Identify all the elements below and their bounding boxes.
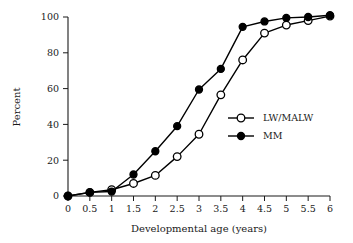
- x-tick-label: 2: [152, 203, 158, 214]
- data-point-marker: [239, 23, 246, 30]
- x-tick-label: 5.5: [301, 203, 316, 214]
- legend-label: MM: [263, 130, 283, 141]
- legend-item-2: MM: [228, 130, 283, 141]
- y-axis-label: Percent: [11, 88, 22, 127]
- x-tick-label: 6: [327, 203, 333, 214]
- y-tick-label: 80: [47, 47, 59, 58]
- legend-label: LW/MALW: [263, 112, 314, 123]
- data-series-group: [64, 12, 334, 200]
- series-2: [65, 12, 334, 200]
- y-tick-label: 60: [47, 83, 59, 94]
- data-point-marker: [217, 91, 225, 99]
- x-tick-label: 2.5: [170, 203, 185, 214]
- data-point-marker: [283, 14, 290, 21]
- data-point-marker: [261, 18, 268, 25]
- data-point-marker: [195, 130, 203, 138]
- data-point-marker: [173, 153, 181, 161]
- legend-item-1: LW/MALW: [228, 112, 314, 123]
- series-line: [68, 15, 330, 196]
- data-point-marker: [152, 172, 160, 180]
- legend-marker: [237, 114, 245, 122]
- y-tick-label: 20: [47, 155, 59, 166]
- x-tick-label: 3.5: [213, 203, 228, 214]
- data-point-marker: [196, 86, 203, 93]
- y-axis-ticks: 020406080100: [41, 11, 68, 201]
- x-axis-ticks: 00.511.522.533.544.555.56: [65, 196, 333, 214]
- x-axis-label: Developmental age (years): [131, 223, 267, 234]
- data-point-marker: [283, 21, 291, 29]
- x-tick-label: 3: [196, 203, 202, 214]
- series-line: [68, 16, 330, 196]
- data-point-marker: [174, 123, 181, 130]
- data-point-marker: [327, 12, 334, 19]
- data-point-marker: [239, 56, 247, 64]
- y-tick-label: 40: [47, 119, 59, 130]
- x-tick-label: 0.5: [82, 203, 97, 214]
- x-tick-label: 4: [240, 203, 246, 214]
- x-tick-label: 1: [109, 203, 115, 214]
- data-point-marker: [217, 65, 224, 72]
- line-chart: 020406080100 00.511.522.533.544.555.56 D…: [0, 0, 353, 243]
- y-tick-label: 0: [53, 190, 59, 201]
- data-point-marker: [305, 14, 312, 21]
- data-point-marker: [130, 171, 137, 178]
- data-point-marker: [108, 188, 115, 195]
- x-tick-label: 5: [283, 203, 289, 214]
- x-tick-label: 4.5: [257, 203, 272, 214]
- x-tick-label: 0: [65, 203, 71, 214]
- data-point-marker: [130, 180, 138, 188]
- y-tick-label: 100: [41, 11, 59, 22]
- legend-marker: [238, 133, 245, 140]
- data-point-marker: [261, 29, 269, 37]
- data-point-marker: [86, 189, 93, 196]
- chart-figure: 020406080100 00.511.522.533.544.555.56 D…: [0, 0, 353, 243]
- data-point-marker: [65, 193, 72, 200]
- x-tick-label: 1.5: [126, 203, 141, 214]
- series-1: [64, 12, 334, 199]
- data-point-marker: [152, 148, 159, 155]
- chart-legend: LW/MALWMM: [228, 112, 314, 141]
